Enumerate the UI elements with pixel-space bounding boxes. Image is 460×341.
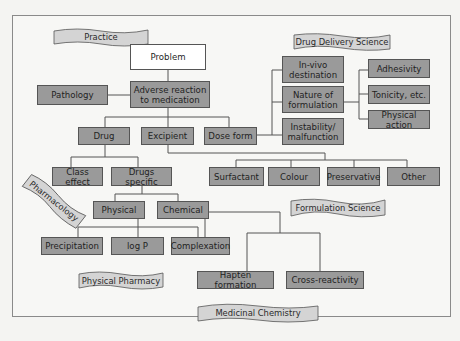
node-in-vivo-destination: In-vivo destination [282,56,344,83]
banner-label: Medicinal Chemistry [196,302,320,324]
banner-label: Drug Delivery Science [292,32,392,52]
node-adhesivity: Adhesivity [368,59,430,78]
node-precipitation: Precipitation [41,237,103,255]
node-log-p: log P [111,237,164,255]
node-drug: Drug [78,127,130,145]
node-problem: Problem [130,44,206,70]
node-surfactant: Surfactant [209,167,264,186]
node-chemical: Chemical [157,201,209,219]
node-hapten-formation: Hapten formation [197,271,274,289]
banner-formulation-science: Formulation Science [289,197,387,219]
node-dose-form: Dose form [204,127,257,145]
node-adverse-reaction: Adverse reaction to medication [130,81,210,108]
node-colour: Colour [268,167,320,186]
banner-label: Formulation Science [289,197,387,219]
node-pathology: Pathology [37,85,108,105]
node-instability: Instability/ malfunction [282,118,344,145]
node-nature-of-formulation: Nature of formulation [282,86,344,113]
node-preservative: Preservative [327,167,380,186]
banner-label: Physical Pharmacy [77,270,165,291]
banner-drug-delivery-science: Drug Delivery Science [292,32,392,52]
node-drugs-specific: Drugs specific [111,167,172,186]
banner-medicinal-chemistry: Medicinal Chemistry [196,302,320,324]
node-other: Other [387,167,440,186]
node-complexation: Complexation [171,237,230,255]
node-physical: Physical [93,201,145,219]
node-class-effect: Class effect [52,167,103,186]
node-cross-reactivity: Cross-reactivity [286,271,364,289]
node-excipient: Excipient [141,127,194,145]
node-tonicity: Tonicity, etc. [368,85,430,104]
banner-physical-pharmacy: Physical Pharmacy [77,270,165,291]
node-physical-action: Physical action [368,110,430,129]
